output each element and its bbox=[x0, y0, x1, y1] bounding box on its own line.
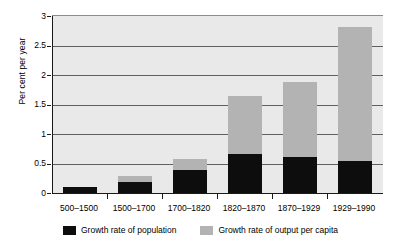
x-tick-mark-1 bbox=[107, 194, 108, 199]
legend-label-population: Growth rate of population bbox=[81, 226, 176, 235]
gridline-2_5 bbox=[53, 46, 383, 47]
bar-segment-output-per-capita bbox=[228, 96, 262, 154]
stacked-bar-chart: Per cent per year 3 2.5 2 1.5 1 0.5 0 bbox=[0, 0, 401, 248]
y-tick-mark-2_5 bbox=[47, 46, 51, 47]
y-tick-label-1: 1 bbox=[24, 130, 46, 139]
y-tick-label-2_5: 2.5 bbox=[24, 41, 46, 50]
y-tick-mark-0 bbox=[47, 193, 51, 194]
x-tick-mark-3 bbox=[217, 194, 218, 199]
gridline-2 bbox=[53, 75, 383, 76]
bar-group-1500-1700[interactable] bbox=[118, 176, 152, 193]
gridline-1 bbox=[53, 134, 383, 135]
black-square-icon bbox=[63, 226, 76, 235]
bar-segment-population bbox=[63, 187, 97, 193]
chart-legend: Growth rate of population Growth rate of… bbox=[0, 226, 401, 235]
y-tick-label-3: 3 bbox=[24, 12, 46, 21]
x-tick-mark-4 bbox=[272, 194, 273, 199]
bar-group-1929-1990[interactable] bbox=[338, 27, 372, 193]
gridline-0_5 bbox=[53, 164, 383, 165]
bar-segment-population bbox=[228, 154, 262, 193]
bar-group-1820-1870[interactable] bbox=[228, 96, 262, 193]
legend-item-population[interactable]: Growth rate of population bbox=[63, 226, 176, 235]
y-tick-label-1_5: 1.5 bbox=[24, 100, 46, 109]
y-tick-label-2: 2 bbox=[24, 71, 46, 80]
gray-square-icon bbox=[200, 226, 213, 235]
y-tick-mark-0_5 bbox=[47, 164, 51, 165]
x-tick-mark-2 bbox=[162, 194, 163, 199]
bar-segment-output-per-capita bbox=[338, 27, 372, 161]
legend-label-output-per-capita: Growth rate of output per capita bbox=[218, 226, 338, 235]
bar-segment-population bbox=[283, 157, 317, 193]
y-tick-mark-1 bbox=[47, 134, 51, 135]
bar-segment-output-per-capita bbox=[283, 82, 317, 157]
y-axis-tick-labels: 3 2.5 2 1.5 1 0.5 0 bbox=[22, 0, 46, 248]
gridline-1_5 bbox=[53, 105, 383, 106]
y-tick-label-0: 0 bbox=[24, 189, 46, 198]
legend-item-output-per-capita[interactable]: Growth rate of output per capita bbox=[200, 226, 338, 235]
bar-segment-population bbox=[173, 170, 207, 193]
y-tick-mark-1_5 bbox=[47, 105, 51, 106]
x-tick-label-1929-1990: 1929–1990 bbox=[322, 203, 386, 213]
y-tick-mark-2 bbox=[47, 75, 51, 76]
bar-segment-output-per-capita bbox=[173, 159, 207, 170]
bar-group-1870-1929[interactable] bbox=[283, 82, 317, 193]
bar-group-500-1500[interactable] bbox=[63, 187, 97, 193]
y-tick-label-0_5: 0.5 bbox=[24, 159, 46, 168]
y-tick-mark-3 bbox=[47, 16, 51, 17]
bar-segment-population bbox=[338, 161, 372, 193]
bar-segment-population bbox=[118, 182, 152, 193]
bar-group-1700-1820[interactable] bbox=[173, 159, 207, 193]
plot-area bbox=[52, 16, 383, 194]
x-tick-mark-5 bbox=[327, 194, 328, 199]
